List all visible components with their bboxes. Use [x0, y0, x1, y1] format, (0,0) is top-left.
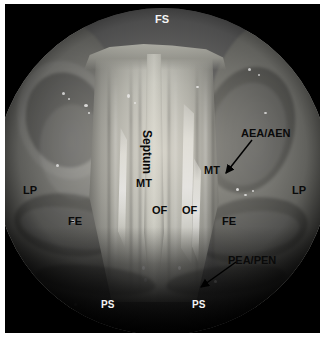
label-planum-sphenoidale-right: PS — [192, 300, 205, 310]
label-fovea-ethmoidalis-left: FE — [68, 216, 82, 227]
label-lamina-papyracea-left: LP — [23, 185, 37, 196]
label-lamina-papyracea-right: LP — [292, 185, 306, 196]
label-fovea-ethmoidalis-right: FE — [222, 216, 236, 227]
endoscope-field — [5, 8, 320, 333]
label-posterior-ethmoid-artery-nerve: PEA/PEN — [228, 255, 276, 266]
label-middle-turbinate-left: MT — [136, 178, 152, 189]
label-planum-sphenoidale-left: PS — [101, 300, 114, 310]
field-vignette — [5, 8, 320, 333]
label-middle-turbinate-right: MT — [204, 165, 220, 176]
label-septum: Septum — [141, 130, 153, 174]
label-olfactory-fossa-right: OF — [182, 205, 197, 216]
endoscopic-figure: FS Septum MT MT OF OF LP LP FE FE AEA/AE… — [0, 0, 325, 337]
label-frontal-sinus: FS — [155, 14, 169, 25]
label-olfactory-fossa-left: OF — [152, 205, 167, 216]
label-anterior-ethmoid-artery-nerve: AEA/AEN — [241, 128, 291, 139]
photo-plate: FS Septum MT MT OF OF LP LP FE FE AEA/AE… — [5, 4, 320, 333]
